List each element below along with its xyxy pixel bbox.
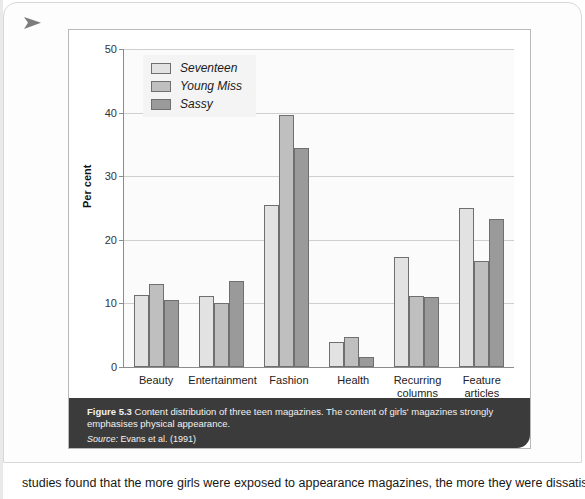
bar [149, 284, 164, 367]
x-axis-labels: BeautyEntertainmentFashionHealthRecurrin… [124, 374, 514, 400]
y-tick-label: 0 [111, 361, 117, 373]
y-tick-label: 40 [105, 107, 117, 119]
caption-body: Figure 5.3 Content distribution of three… [87, 406, 514, 430]
bar [344, 337, 359, 367]
figure-panel: Per cent 01020304050 BeautyEntertainment… [68, 29, 531, 449]
legend-label: Sassy [180, 97, 213, 111]
y-axis-title: Per cent [81, 165, 93, 208]
bar-group [319, 49, 384, 367]
bar [164, 300, 179, 367]
legend-item: Young Miss [151, 79, 242, 93]
x-axis-label: Feature articles [450, 374, 514, 400]
caption-label: Figure 5.3 [87, 406, 132, 417]
bar [229, 281, 244, 367]
bar [474, 261, 489, 367]
bar [409, 296, 424, 367]
legend-swatch [151, 63, 171, 74]
bar [134, 295, 149, 368]
legend-item: Sassy [151, 97, 242, 111]
bar [329, 342, 344, 367]
bar-group [254, 49, 319, 367]
bar [459, 208, 474, 367]
x-axis-label: Entertainment [188, 374, 256, 400]
bar [394, 257, 409, 367]
bar [424, 297, 439, 367]
bar [264, 205, 279, 367]
y-tick-mark [119, 367, 124, 368]
y-tick-label: 50 [105, 43, 117, 55]
legend-swatch [151, 81, 171, 92]
y-tick-label: 20 [105, 234, 117, 246]
arrow-right-triangle-icon [22, 14, 44, 32]
legend-label: Young Miss [180, 79, 242, 93]
x-axis-label: Beauty [124, 374, 188, 400]
legend-item: Seventeen [151, 61, 242, 75]
bar [199, 296, 214, 367]
legend-label: Seventeen [180, 61, 237, 75]
source-text: Evans et al. (1991) [121, 434, 197, 444]
caption-description: Content distribution of three teen magaz… [87, 406, 493, 429]
bar [359, 357, 374, 367]
bar-group [449, 49, 514, 367]
y-tick-label: 10 [105, 297, 117, 309]
bar-group [384, 49, 449, 367]
y-tick-label: 30 [105, 170, 117, 182]
bar [214, 303, 229, 367]
page-sheet: Per cent 01020304050 BeautyEntertainment… [3, 2, 582, 463]
x-axis-label: Health [321, 374, 385, 400]
bar-chart: Per cent 01020304050 BeautyEntertainment… [69, 30, 530, 398]
source-label: Source: [87, 434, 118, 444]
x-axis-label: Fashion [257, 374, 321, 400]
chart-legend: SeventeenYoung MissSassy [143, 55, 256, 117]
body-paragraph: studies found that the more girls were e… [22, 476, 578, 490]
caption-source: Source: Evans et al. (1991) [87, 434, 514, 444]
bar [279, 115, 294, 367]
figure-caption: Figure 5.3 Content distribution of three… [69, 398, 530, 448]
bar [489, 219, 504, 367]
legend-swatch [151, 99, 171, 110]
bar [294, 148, 309, 367]
x-axis-label: Recurring columns [385, 374, 449, 400]
